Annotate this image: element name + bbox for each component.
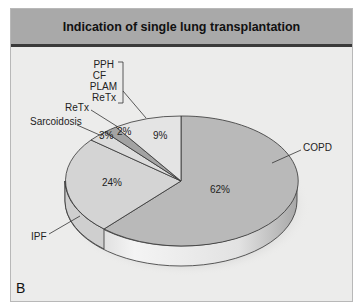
leader-retx: [91, 110, 118, 127]
pct-copd: 62%: [210, 184, 230, 195]
label-other-cf: CF: [93, 70, 106, 81]
label-ipf: IPF: [31, 231, 47, 242]
bracket-other: [118, 62, 123, 103]
label-sarcoidosis: Sarcoidosis: [30, 116, 82, 127]
pct-other: 9%: [153, 130, 168, 141]
panel-label: B: [16, 280, 25, 296]
label-other-pph: PPH: [93, 59, 114, 70]
pie-chart: 62% 24% 3% 2% 9% COPD IPF Sarcoidosis Re…: [0, 0, 360, 307]
label-copd: COPD: [303, 142, 332, 153]
pct-ipf: 24%: [102, 177, 122, 188]
pct-retx: 2%: [117, 126, 132, 137]
leader-other: [123, 91, 146, 118]
label-other-plam: PLAM: [90, 81, 117, 92]
label-retx: ReTx: [65, 102, 89, 113]
label-other-retx: ReTx: [92, 92, 116, 103]
